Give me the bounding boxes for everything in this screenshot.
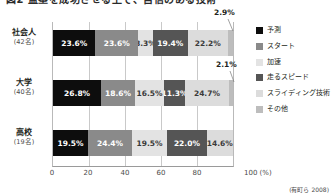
bar-segment: 22.0% — [167, 130, 207, 156]
bar-segment: 26.8% — [53, 80, 101, 106]
bar-segment: 8.3% — [138, 30, 153, 56]
legend-swatch-icon — [256, 74, 263, 81]
xtick-20: 20 — [76, 169, 100, 177]
legend-item[interactable]: 走るスピード — [256, 73, 332, 82]
xtick-0: 0 — [40, 169, 64, 177]
legend-item[interactable]: 加速 — [256, 58, 332, 67]
stacked-bar-row: 26.8%18.6%16.5%11.3%24.7% — [53, 80, 233, 106]
category-label-row-1: 大学 (40名) — [0, 78, 48, 96]
legend-label: スライディング技術 — [267, 89, 330, 98]
callout-label-row-0: 2.9% — [214, 8, 235, 17]
bar-segment — [228, 30, 233, 56]
xtick-80: 80 — [185, 169, 209, 177]
chart-plot-area: 23.6%23.6%8.3%19.4%22.2% 26.8%18.6%16.5%… — [52, 22, 234, 167]
bar-segment: 19.4% — [153, 30, 188, 56]
category-count: (19名) — [0, 138, 48, 146]
legend-swatch-icon — [256, 90, 263, 97]
legend-item[interactable]: スタート — [256, 42, 332, 51]
category-label-row-2: 高校 (19名) — [0, 128, 48, 146]
bar-segment: 22.2% — [188, 30, 228, 56]
bar-segment: 24.7% — [185, 80, 229, 106]
bar-segment: 19.5% — [132, 130, 167, 156]
xtick-40: 40 — [113, 169, 137, 177]
legend-swatch-icon — [256, 59, 263, 66]
legend-swatch-icon — [256, 43, 263, 50]
bar-segment: 16.5% — [135, 80, 165, 106]
legend-item[interactable]: その他 — [256, 105, 332, 114]
chart-legend: 予測スタート加速走るスピードスライディング技術その他 — [256, 26, 332, 121]
stacked-bar-row: 23.6%23.6%8.3%19.4%22.2% — [53, 30, 233, 56]
bar-segment: 24.4% — [88, 130, 132, 156]
legend-item[interactable]: 予測 — [256, 26, 332, 35]
category-name: 社会人 — [0, 28, 48, 38]
page-title: 図2 盗塁を成功させる上で、自信のある技術 — [6, 0, 217, 6]
category-name: 大学 — [0, 78, 48, 88]
bar-segment: 19.5% — [53, 130, 88, 156]
legend-label: 加速 — [267, 58, 281, 67]
bar-segment: 23.6% — [53, 30, 95, 56]
legend-item[interactable]: スライディング技術 — [256, 89, 332, 98]
category-count: (42名) — [0, 38, 48, 46]
xaxis-unit-label: 100 (%) — [244, 169, 272, 177]
legend-swatch-icon — [256, 27, 263, 34]
legend-label: 予測 — [267, 26, 281, 35]
source-note: (有町ら 2008) — [289, 185, 329, 194]
bar-segment: 23.6% — [95, 30, 137, 56]
bar-segment: 11.3% — [164, 80, 184, 106]
category-count: (40名) — [0, 88, 48, 96]
stacked-bar-row: 19.5%24.4%19.5%22.0%14.6% — [53, 130, 233, 156]
category-label-row-0: 社会人 (42名) — [0, 28, 48, 46]
legend-swatch-icon — [256, 106, 263, 113]
category-name: 高校 — [0, 128, 48, 138]
legend-label: スタート — [267, 42, 295, 51]
legend-label: 走るスピード — [267, 73, 309, 82]
xtick-60: 60 — [149, 169, 173, 177]
callout-label-row-1: 2.1% — [216, 60, 237, 69]
legend-label: その他 — [267, 105, 288, 114]
bar-segment — [229, 80, 233, 106]
bar-segment: 18.6% — [101, 80, 134, 106]
bar-segment: 14.6% — [207, 130, 233, 156]
